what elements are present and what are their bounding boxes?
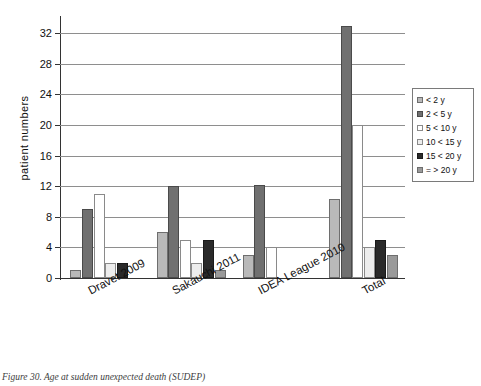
bar	[352, 125, 363, 278]
y-axis-title: patient numbers	[18, 58, 30, 218]
tick-mark	[55, 64, 60, 65]
bar-group	[70, 18, 140, 278]
y-tick-label: 0	[26, 273, 52, 283]
tick-mark	[55, 125, 60, 126]
legend-item: 10 < 15 y	[417, 135, 470, 149]
tick-mark	[55, 94, 60, 95]
legend-label: = > 20 y	[426, 165, 457, 175]
tick-mark	[55, 278, 60, 279]
bar	[329, 199, 340, 278]
bar	[82, 209, 93, 278]
legend-swatch	[417, 167, 423, 173]
bar	[387, 255, 398, 278]
legend-item: 5 < 10 y	[417, 121, 470, 135]
y-tick-label: 28	[26, 59, 52, 69]
y-tick-label: 20	[26, 120, 52, 130]
figure-container: patient numbers 048121620242832 Dravet 2…	[0, 0, 481, 386]
legend-swatch	[417, 125, 423, 131]
y-tick-label: 16	[26, 151, 52, 161]
legend-label: 5 < 10 y	[426, 123, 456, 133]
plot-area: 048121620242832 Dravet 2009Sakauchi 2011…	[60, 18, 405, 278]
y-tick-label: 24	[26, 89, 52, 99]
legend-label: < 2 y	[426, 95, 445, 105]
legend-item: < 2 y	[417, 93, 470, 107]
legend-item: 2 < 5 y	[417, 107, 470, 121]
tick-mark	[55, 217, 60, 218]
bar	[254, 185, 265, 278]
legend-swatch	[417, 139, 423, 145]
legend-label: 2 < 5 y	[426, 109, 452, 119]
bar	[364, 247, 375, 278]
tick-mark	[55, 33, 60, 34]
bar	[341, 26, 352, 278]
bar	[266, 247, 277, 278]
y-tick-label: 8	[26, 212, 52, 222]
bar-group	[329, 18, 399, 278]
bar	[157, 232, 168, 278]
legend-swatch	[417, 153, 423, 159]
legend-item: = > 20 y	[417, 163, 470, 177]
legend-label: 15 < 20 y	[426, 151, 461, 161]
y-tick-label: 32	[26, 28, 52, 38]
legend-label: 10 < 15 y	[426, 137, 461, 147]
y-tick-label: 4	[26, 242, 52, 252]
y-tick-label: 12	[26, 181, 52, 191]
tick-mark	[55, 247, 60, 248]
legend-swatch	[417, 97, 423, 103]
legend-swatch	[417, 111, 423, 117]
bar	[70, 270, 81, 278]
bar	[94, 194, 105, 278]
bar-group	[243, 18, 313, 278]
tick-mark	[55, 156, 60, 157]
bar-group	[157, 18, 227, 278]
bar	[243, 255, 254, 278]
y-axis-line	[60, 16, 61, 280]
bar	[168, 186, 179, 278]
tick-mark	[55, 186, 60, 187]
figure-caption: Figure 30. Age at sudden unexpected deat…	[2, 372, 205, 382]
bar	[180, 240, 191, 278]
legend-item: 15 < 20 y	[417, 149, 470, 163]
bar	[375, 240, 386, 278]
chart-legend: < 2 y2 < 5 y5 < 10 y10 < 15 y15 < 20 y= …	[412, 88, 474, 182]
